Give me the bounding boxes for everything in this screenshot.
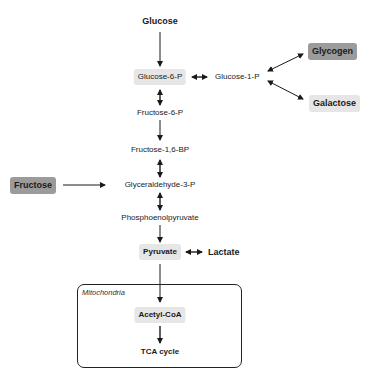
node-glycogen: Glycogen	[308, 43, 357, 60]
node-galactose: Galactose	[309, 95, 360, 112]
node-glucose: Glucose	[142, 17, 178, 26]
mitochondria-label: Mitochondria	[82, 288, 125, 297]
node-glyceraldehyde-3-p: Glyceraldehyde-3-P	[125, 181, 196, 189]
node-acetyl-coa: Acetyl-CoA	[134, 307, 185, 323]
node-fructose: Fructose	[10, 177, 56, 194]
node-pyruvate: Pyruvate	[139, 244, 181, 260]
node-fructose-1-6-bp: Fructose-1,6-BP	[131, 146, 189, 154]
arrow-g1p-galactose	[268, 81, 303, 99]
arrow-g1p-glycogen	[268, 54, 303, 71]
node-fructose-6-p: Fructose-6-P	[137, 109, 183, 117]
node-tca-cycle: TCA cycle	[141, 348, 179, 356]
node-lactate: Lactate	[208, 248, 240, 257]
node-glucose-1-p: Glucose-1-P	[215, 73, 259, 81]
node-glucose-6-p: Glucose-6-P	[134, 69, 186, 85]
node-phosphoenolpyruvate: Phosphoenolpyruvate	[121, 214, 198, 222]
